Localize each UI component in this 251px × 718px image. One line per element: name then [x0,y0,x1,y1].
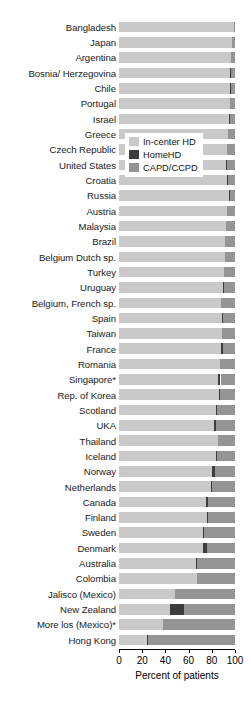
legend-swatch-capd-ccpd [129,163,139,172]
category-label: Malaysia [79,222,116,232]
category-label: Bosnia/ Herzegovina [28,69,116,79]
stacked-bar [119,466,235,477]
category-label: Denmark [77,544,116,554]
bar-segment-capd-ccpd [228,175,235,186]
chart-legend: In-center HD HomeHD CAPD/CCPD [125,133,203,177]
bar-segment-in-center-hd [119,405,216,416]
bar-segment-in-center-hd [119,52,231,63]
x-tick-label: 40 [160,655,171,666]
category-label: Colombia [76,574,116,584]
category-label: Belgium Dutch sp. [39,253,116,263]
bar-segment-in-center-hd [119,114,229,125]
bar-segment-in-center-hd [119,22,234,33]
chart-row: Norway [0,465,251,480]
stacked-bar [119,527,235,538]
legend-item-home-hd: HomeHD [129,149,198,160]
bar-segment-in-center-hd [119,527,203,538]
bar-segment-capd-ccpd [224,282,235,293]
chart-plot-rows: BangladeshJapanArgentinaBosnia/ Herzegov… [0,20,251,648]
bar-segment-capd-ccpd [218,435,235,446]
stacked-bar [119,298,235,309]
bar-segment-capd-ccpd [197,558,235,569]
legend-swatch-in-center-hd [129,137,139,146]
bar-segment-in-center-hd [119,68,230,79]
x-axis [119,649,235,650]
bar-segment-capd-ccpd [223,343,235,354]
chart-row: Denmark [0,541,251,556]
category-label: Uruguay [80,283,116,293]
category-label: Iceland [85,452,116,462]
bar-segment-in-center-hd [119,359,220,370]
bar-segment-capd-ccpd [227,206,235,217]
chart-row: More los (Mexico)* [0,618,251,633]
stacked-bar [119,252,235,263]
category-label: Australia [79,559,116,569]
bar-segment-capd-ccpd [220,389,235,400]
chart-row: Bosnia/ Herzegovina [0,66,251,81]
bar-segment-in-center-hd [119,190,229,201]
bar-segment-capd-ccpd [215,466,235,477]
category-label: Romania [78,360,116,370]
bar-segment-in-center-hd [119,481,211,492]
chart-row: Portugal [0,97,251,112]
bar-segment-capd-ccpd [225,236,235,247]
bar-segment-capd-ccpd [224,267,235,278]
bar-segment-capd-ccpd [230,190,235,201]
chart-row: Iceland [0,449,251,464]
bar-segment-capd-ccpd [220,359,235,370]
category-label: Hong Kong [68,636,116,646]
category-label: Netherlands [65,483,116,493]
bar-segment-in-center-hd [119,252,225,263]
bar-segment-capd-ccpd [207,543,235,554]
bar-segment-in-center-hd [119,206,227,217]
stacked-bar [119,83,235,94]
category-label: Scotland [79,406,116,416]
chart-row: Turkey [0,265,251,280]
category-label: More los (Mexico)* [37,620,116,630]
stacked-bar-chart: BangladeshJapanArgentinaBosnia/ Herzegov… [0,0,251,718]
chart-row: Argentina [0,51,251,66]
bar-segment-in-center-hd [119,389,219,400]
bar-segment-in-center-hd [119,512,207,523]
chart-row: Brazil [0,235,251,250]
chart-row: Scotland [0,403,251,418]
stacked-bar [119,619,235,630]
chart-row: Netherlands [0,480,251,495]
stacked-bar [119,267,235,278]
stacked-bar [119,389,235,400]
category-label: Belgium, French sp. [32,299,116,309]
legend-item-in-center-hd: In-center HD [129,136,198,147]
bar-segment-capd-ccpd [197,573,235,584]
category-label: Spain [92,314,116,324]
stacked-bar [119,512,235,523]
bar-segment-capd-ccpd [232,37,235,48]
stacked-bar [119,236,235,247]
bar-segment-in-center-hd [119,236,225,247]
bar-segment-in-center-hd [119,497,206,508]
category-label: Norway [84,467,116,477]
stacked-bar [119,420,235,431]
legend-swatch-home-hd [129,150,139,159]
x-tick [189,650,190,653]
chart-row: Singapore* [0,373,251,388]
x-tick [235,650,236,653]
bar-segment-capd-ccpd [230,114,235,125]
stacked-bar [119,573,235,584]
legend-item-capd-ccpd: CAPD/CCPD [129,162,198,173]
bar-segment-capd-ccpd [184,604,235,615]
bar-segment-in-center-hd [119,37,232,48]
category-label: Finland [85,513,116,523]
category-label: Czech Republic [50,145,117,155]
legend-label-capd-ccpd: CAPD/CCPD [143,163,198,173]
category-label: UKA [96,421,116,431]
chart-row: Australia [0,556,251,571]
stacked-bar [119,313,235,324]
stacked-bar [119,589,235,600]
bar-segment-capd-ccpd [231,52,235,63]
category-label: Singapore* [69,375,116,385]
bar-segment-in-center-hd [119,343,221,354]
bar-segment-capd-ccpd [225,252,235,263]
category-label: New Zealand [60,605,116,615]
stacked-bar [119,52,235,63]
category-label: Croatia [85,176,116,186]
